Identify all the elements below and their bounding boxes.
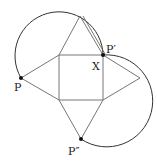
right-triangle (103, 55, 140, 100)
bottom-triangle (59, 100, 103, 139)
point-P-prime (101, 53, 105, 57)
point-P (19, 76, 23, 80)
label-P-prime: P′ (106, 43, 116, 56)
apex-chord (83, 16, 105, 54)
top-triangle (59, 16, 103, 55)
label-P: P (14, 81, 22, 94)
label-X: X (92, 60, 100, 73)
point-P-double-prime (79, 137, 83, 141)
label-P-double-prime: P″ (68, 145, 80, 158)
left-triangle (21, 55, 59, 100)
geometry-diagram: P P′ X P″ (0, 0, 157, 165)
